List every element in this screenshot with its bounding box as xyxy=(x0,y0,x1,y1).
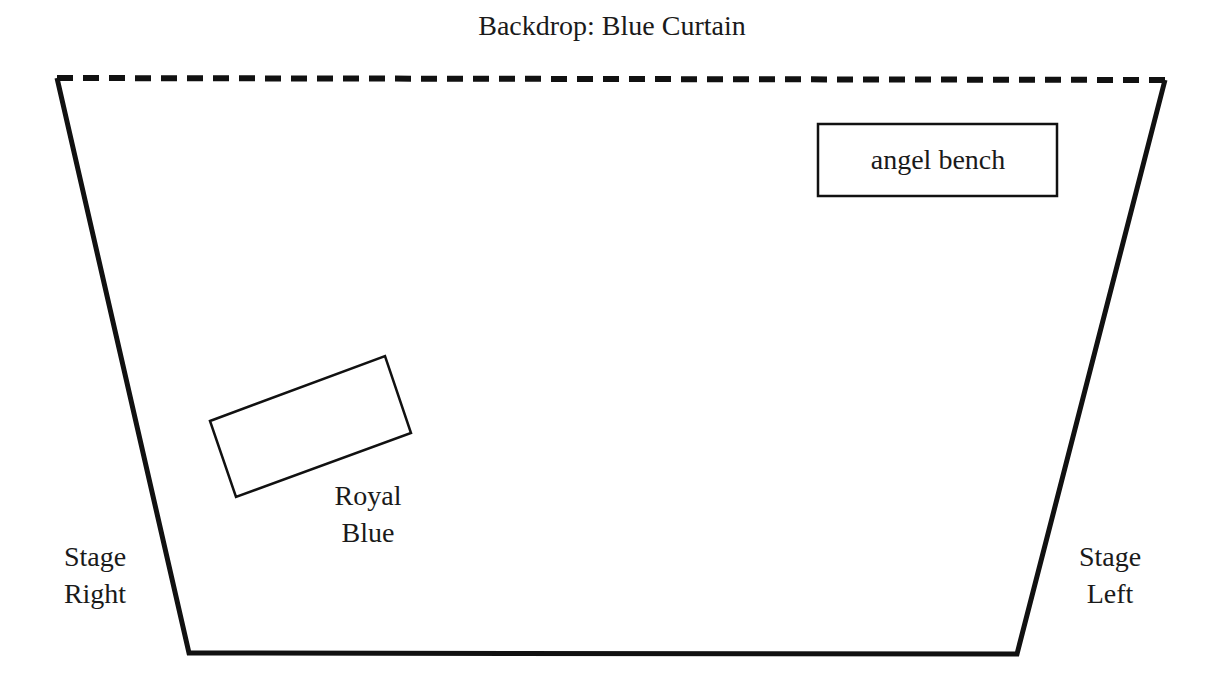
stage-right-label: Stage Right xyxy=(50,538,140,612)
stage-diagram xyxy=(0,0,1214,686)
stage-left-label-line2: Left xyxy=(1065,575,1155,612)
stage-right-label-line1: Stage xyxy=(50,538,140,575)
backdrop-line xyxy=(57,78,1165,80)
royal-blue-label: Royal Blue xyxy=(318,477,418,551)
royal-blue-prop xyxy=(210,356,411,497)
royal-blue-label-line1: Royal xyxy=(318,477,418,514)
stage-left-label: Stage Left xyxy=(1065,538,1155,612)
royal-blue-label-line2: Blue xyxy=(318,514,418,551)
backdrop-label: Backdrop: Blue Curtain xyxy=(447,8,777,44)
stage-right-label-line2: Right xyxy=(50,575,140,612)
angel-bench-label: angel bench xyxy=(818,142,1058,178)
stage-left-label-line1: Stage xyxy=(1065,538,1155,575)
